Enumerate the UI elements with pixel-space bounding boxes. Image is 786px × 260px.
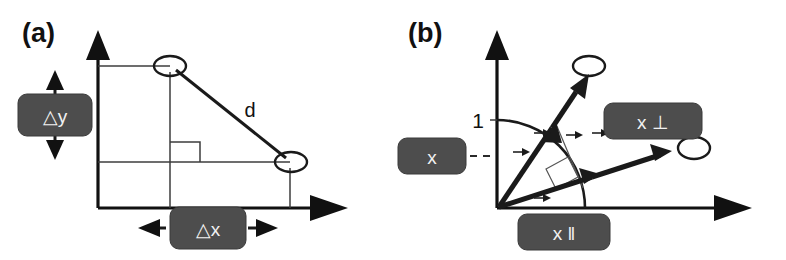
unit-tick-label: 1: [472, 109, 484, 132]
panel-b-y-axis-arrowhead: [485, 30, 509, 60]
x-axis-arrowhead: [310, 195, 348, 221]
delta-y-arrowhead-up: [46, 70, 64, 90]
mini-arrow-3-head: [575, 131, 583, 139]
x-parallel-badge-group: x ‖: [518, 214, 610, 250]
mini-arrow-5-head: [543, 194, 551, 202]
vector-x-parallel-point-marker: [678, 137, 710, 159]
vector-x-parallel: [499, 137, 710, 207]
vector-x-parallel-extension-stem: [592, 155, 660, 177]
vector-x-perp-point-marker: [573, 56, 605, 76]
x-badge-group: x: [398, 138, 466, 174]
panel-b: (b) 1: [398, 18, 752, 250]
x-perp-badge-label: x ⊥: [637, 112, 669, 133]
x-badge-label: x: [427, 147, 437, 168]
panel-a-label: (a): [22, 18, 55, 48]
panel-a-right-angle-marker: [170, 142, 200, 162]
y-axis-arrowhead: [86, 30, 110, 60]
mini-arrow-1-head: [522, 148, 530, 156]
panel-b-x-axis-arrowhead: [714, 195, 752, 221]
figure-svg: (a) d: [0, 0, 786, 260]
panel-b-label: (b): [408, 18, 442, 48]
distance-label: d: [244, 99, 255, 121]
delta-y-dimension: △y: [18, 70, 92, 160]
vector-x-perp-extension-stem: [552, 92, 576, 128]
vector-x-parallel-stem: [499, 177, 592, 207]
delta-x-dimension: △x: [138, 207, 278, 249]
distance-segment: [176, 70, 286, 158]
delta-x-badge-label: △x: [196, 219, 221, 240]
panel-a: (a) d: [18, 18, 348, 249]
vector-x-perp: [499, 56, 605, 207]
x-parallel-badge-label: x ‖: [553, 223, 576, 244]
delta-x-arrowhead-right: [256, 219, 278, 237]
delta-x-arrowhead-left: [138, 219, 160, 237]
delta-y-badge-label: △y: [43, 106, 68, 127]
delta-y-arrowhead-down: [46, 140, 64, 160]
figure-container: (a) d: [0, 0, 786, 260]
x-perp-badge-group: x ⊥: [604, 103, 702, 139]
